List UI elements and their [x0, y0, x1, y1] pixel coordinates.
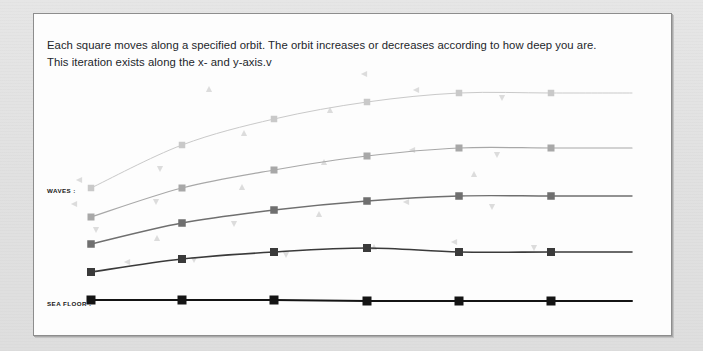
- scatter-glyph: [494, 152, 500, 158]
- data-point-marker[interactable]: [87, 240, 95, 248]
- data-point-marker[interactable]: [88, 214, 95, 221]
- scatter-glyph: [403, 199, 409, 205]
- scatter-glyph: [451, 239, 457, 245]
- data-point-marker[interactable]: [456, 145, 463, 152]
- scatter-glyph: [531, 245, 537, 251]
- scatter-glyph-layer: [71, 71, 537, 265]
- series-line: [91, 147, 632, 217]
- scatter-glyph: [371, 244, 377, 250]
- series-orbit-1-shallowest: [88, 90, 632, 192]
- data-point-marker[interactable]: [363, 297, 372, 306]
- data-point-marker[interactable]: [455, 248, 463, 256]
- data-point-marker[interactable]: [455, 192, 463, 200]
- series-orbit-5-sea-floor: [87, 296, 633, 306]
- page-background: Each square moves along a specified orbi…: [0, 0, 703, 351]
- data-point-marker[interactable]: [547, 192, 555, 200]
- data-point-marker[interactable]: [178, 255, 186, 263]
- scatter-glyph: [361, 71, 367, 77]
- data-point-marker[interactable]: [455, 297, 464, 306]
- scatter-glyph: [471, 171, 477, 177]
- data-point-marker[interactable]: [88, 185, 95, 192]
- scatter-glyph: [206, 86, 212, 92]
- scatter-glyph: [239, 184, 245, 190]
- scatter-glyph: [499, 95, 505, 101]
- series-orbit-3: [87, 192, 632, 248]
- scatter-glyph: [76, 177, 82, 183]
- data-point-marker[interactable]: [270, 206, 278, 214]
- scatter-glyph: [71, 201, 77, 207]
- data-point-marker[interactable]: [271, 167, 278, 174]
- data-point-marker[interactable]: [363, 197, 371, 205]
- data-point-marker[interactable]: [364, 99, 371, 106]
- data-point-marker[interactable]: [547, 248, 555, 256]
- data-point-marker[interactable]: [547, 297, 556, 306]
- orbit-line-chart: [34, 14, 672, 336]
- scatter-glyph: [241, 130, 247, 136]
- scatter-glyph: [283, 252, 289, 258]
- data-point-marker[interactable]: [271, 116, 278, 123]
- scatter-glyph: [489, 204, 495, 210]
- series-orbit-2: [88, 145, 633, 221]
- series-layer: [87, 90, 633, 306]
- data-point-marker[interactable]: [179, 142, 186, 149]
- scatter-glyph: [93, 227, 99, 233]
- data-point-marker[interactable]: [456, 90, 463, 97]
- series-orbit-4: [87, 244, 632, 276]
- data-point-marker[interactable]: [270, 248, 278, 256]
- plot-area: [34, 14, 672, 336]
- scatter-glyph: [154, 235, 160, 241]
- data-point-marker[interactable]: [548, 90, 555, 97]
- scatter-glyph: [157, 166, 163, 172]
- data-point-marker[interactable]: [363, 244, 371, 252]
- data-point-marker[interactable]: [87, 268, 95, 276]
- data-point-marker[interactable]: [179, 185, 186, 192]
- scatter-glyph: [409, 147, 415, 153]
- data-point-marker[interactable]: [270, 296, 279, 305]
- scatter-glyph: [124, 259, 130, 265]
- data-point-marker[interactable]: [178, 296, 187, 305]
- series-line: [91, 196, 632, 244]
- data-point-marker[interactable]: [178, 219, 186, 227]
- data-point-marker[interactable]: [548, 145, 555, 152]
- scatter-glyph: [316, 211, 322, 217]
- data-point-marker[interactable]: [364, 153, 371, 160]
- scatter-glyph: [413, 87, 419, 93]
- scatter-glyph: [231, 221, 237, 227]
- figure-panel: Each square moves along a specified orbi…: [33, 13, 672, 336]
- series-line: [91, 92, 632, 188]
- scatter-glyph: [153, 199, 159, 205]
- data-point-marker[interactable]: [87, 296, 96, 305]
